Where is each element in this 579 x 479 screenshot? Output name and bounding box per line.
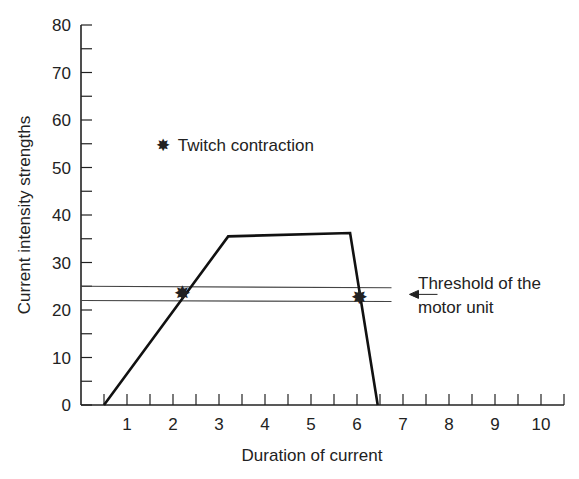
x-tick-label: 4 [260,415,269,434]
threshold-lower-line [81,301,392,302]
y-axis-title-group: Current intensity strengths [15,116,34,314]
x-tick-label: 2 [168,415,177,434]
twitch-star-icon: ✸ [351,286,368,308]
x-tick-label: 1 [122,415,131,434]
stimulus-curve [104,233,378,405]
y-tick-label: 60 [52,111,71,130]
y-tick-label: 20 [52,301,71,320]
threshold-label-line1: Threshold of the [418,274,541,293]
x-tick-label: 3 [214,415,223,434]
threshold-label-line2: motor unit [418,298,494,317]
x-tick-label: 5 [306,415,315,434]
legend: ✸ Twitch contraction [156,136,314,155]
y-tick-label: 40 [52,206,71,225]
y-tick-label: 30 [52,254,71,273]
twitch-star-icon: ✸ [174,282,191,304]
threshold-band [81,286,392,301]
x-tick-label: 7 [398,415,407,434]
data-series [104,233,378,405]
threshold-upper-line [81,286,392,288]
x-tick-label: 6 [352,415,361,434]
twitch-markers: ✸✸ [174,282,368,307]
legend-label: Twitch contraction [178,136,314,155]
y-axis-title: Current intensity strengths [15,116,34,314]
x-tick-label: 8 [444,415,453,434]
y-tick-label: 10 [52,349,71,368]
x-tick-label: 10 [532,415,551,434]
x-axis-title: Duration of current [242,446,383,465]
y-tick-label: 50 [52,159,71,178]
y-axis: 01020304050607080 [52,16,92,415]
x-axis: 12345678910 [81,394,564,434]
twitch-star-icon: ✸ [156,136,170,155]
y-tick-label: 80 [52,16,71,35]
y-tick-label: 70 [52,64,71,83]
threshold-annotation: Threshold of the motor unit [410,274,541,317]
chart: Current intensity strengths 010203040506… [0,0,579,479]
y-tick-label: 0 [62,396,71,415]
x-tick-label: 9 [490,415,499,434]
